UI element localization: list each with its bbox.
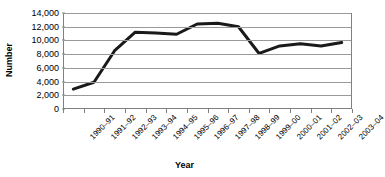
gridline [63, 95, 351, 96]
gridline [63, 40, 351, 41]
x-axis-tick-labels: 1990–911991–921992–931993–941994–951995–… [63, 113, 352, 159]
gridline [63, 82, 351, 83]
y-tick-label: 10,000 [31, 35, 59, 45]
y-tick-label: 8,000 [36, 49, 59, 59]
gridline [63, 13, 351, 14]
y-tick-label: 2,000 [36, 90, 59, 100]
gridline [63, 54, 351, 55]
y-tick-label: 6,000 [36, 63, 59, 73]
gridline [63, 27, 351, 28]
x-tick-mark [352, 109, 353, 113]
y-tick-label: 14,000 [31, 8, 59, 18]
y-axis-tick-labels: 02,0004,0006,0008,00010,00012,00014,000 [16, 0, 62, 177]
y-tick-label: 4,000 [36, 77, 59, 87]
gridline [63, 68, 351, 69]
y-tick-label: 12,000 [31, 22, 59, 32]
y-tick-label: 0 [54, 104, 59, 114]
plot-area [63, 13, 352, 109]
y-axis-title: Number [2, 30, 16, 90]
x-axis-title: Year [0, 160, 369, 170]
